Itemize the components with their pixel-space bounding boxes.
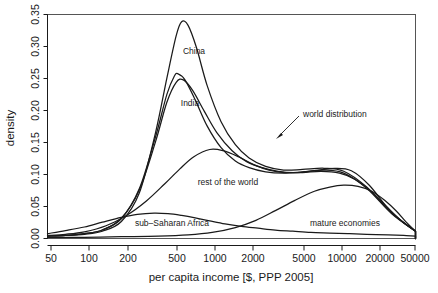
y-tick-label-4: 0.20: [29, 100, 41, 121]
y-tick-label-3: 0.15: [29, 132, 41, 153]
annotation-leader-line: [279, 116, 299, 136]
x-tick-label-0: 50: [45, 252, 57, 264]
curve-china: [48, 21, 416, 239]
y-tick-label-6: 0.30: [29, 36, 41, 57]
curve-label-rest-of-the-world: rest of the world: [198, 177, 259, 187]
y-tick-label-7: 0.35: [29, 4, 41, 25]
curve-group: [48, 21, 416, 239]
curve-india: [48, 73, 416, 238]
y-axis-title: density: [4, 110, 16, 147]
x-tick-label-9: 50000: [400, 252, 429, 264]
y-tick-label-2: 0.10: [29, 164, 41, 185]
density-chart: 0.00 0.05 0.10 0.15 0.20 0.25 0.30 0.35 …: [0, 0, 438, 293]
y-tick-label-5: 0.25: [29, 68, 41, 89]
x-tick-label-5: 2000: [241, 252, 265, 264]
plot-frame: [48, 15, 416, 239]
y-tick-label-0: 0.00: [29, 228, 41, 249]
curve-label-sub-saharan-africa: sub–Saharan Africa: [135, 218, 209, 228]
x-tick-label-6: 5000: [292, 252, 316, 264]
x-axis-title: per capita income [$, PPP 2005]: [149, 271, 314, 283]
x-tick-label-7: 10000: [327, 252, 356, 264]
curve-label-mature-economies: mature economies: [310, 218, 380, 228]
chart-screenshot: 0.00 0.05 0.10 0.15 0.20 0.25 0.30 0.35 …: [0, 0, 438, 293]
y-axis: 0.00 0.05 0.10 0.15 0.20 0.25 0.30 0.35 …: [4, 4, 48, 249]
x-tick-label-4: 1000: [203, 252, 227, 264]
x-tick-label-8: 20000: [365, 252, 394, 264]
x-tick-label-1: 100: [80, 252, 98, 264]
annotation-world-distribution: world distribution: [276, 109, 367, 139]
annotation-label-world-distribution: world distribution: [302, 109, 367, 119]
curve-label-india: India: [181, 98, 200, 108]
x-tick-label-3: 500: [168, 252, 186, 264]
y-tick-label-1: 0.05: [29, 196, 41, 217]
x-axis: 50 100 200 500 1000 2000 5000 10000 2000…: [45, 246, 430, 284]
x-tick-label-2: 200: [119, 252, 137, 264]
annotation-arrow-head-icon: [276, 133, 283, 139]
curve-label-china: China: [183, 46, 205, 56]
